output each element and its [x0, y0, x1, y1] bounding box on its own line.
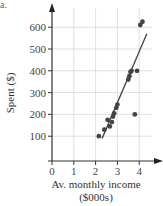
x-axis-label: Av. monthly income	[51, 178, 140, 190]
regression-line	[102, 34, 147, 139]
data-point	[105, 117, 110, 122]
data-point	[115, 102, 120, 107]
x-axis-unit-label: ($000s)	[79, 191, 113, 204]
y-tick-label: 200	[30, 108, 47, 120]
x-tick-label: 3	[115, 165, 121, 177]
x-tick-label: 2	[93, 165, 99, 177]
data-point	[96, 134, 101, 139]
scatter-chart: a. 100200300400500600 01234 Spent ($) Av…	[0, 0, 163, 206]
data-point	[129, 68, 134, 73]
y-tick-label: 400	[30, 65, 47, 77]
data-point	[132, 112, 137, 117]
data-point	[127, 74, 132, 79]
x-tick-label: 0	[49, 165, 55, 177]
data-point	[135, 68, 140, 73]
y-tick-label: 500	[30, 43, 47, 55]
y-tick-label: 100	[30, 130, 47, 142]
regression-line-segment	[102, 34, 147, 139]
y-ticks: 100200300400500600	[30, 21, 53, 142]
x-axis-arrow-icon	[154, 158, 163, 164]
x-tick-label: 4	[136, 165, 142, 177]
part-label: a.	[0, 0, 7, 10]
y-tick-label: 300	[30, 87, 47, 99]
data-points	[96, 19, 144, 138]
x-ticks: 01234	[49, 161, 142, 177]
y-tick-label: 600	[30, 21, 47, 33]
y-axis-arrow-icon	[49, 3, 55, 12]
data-point	[107, 124, 112, 129]
data-point	[110, 120, 115, 125]
y-axis-label: Spent ($)	[4, 72, 17, 113]
data-point	[140, 19, 145, 24]
x-tick-label: 1	[71, 165, 77, 177]
data-point	[112, 111, 117, 116]
data-point	[102, 127, 107, 132]
